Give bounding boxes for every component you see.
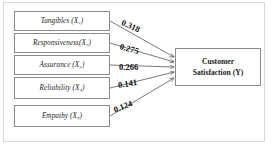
node-tangibles-label: Tangibles (X₁) [41,17,84,25]
node-empathy-label: Empathy (X₅) [42,112,82,120]
node-reliability-label: Reliability (X₄) [39,84,84,92]
outcome-line-2: Satisfaction (Y) [193,67,243,78]
node-tangibles: Tangibles (X₁) [14,11,110,31]
node-responsiveness: Responsiveness(X₂) [14,33,110,53]
coefficient-assurance: 0.266 [119,62,138,72]
node-responsiveness-label: Responsiveness(X₂) [33,39,91,47]
node-customer-satisfaction: Customer Satisfaction (Y) [175,48,261,86]
node-empathy: Empathy (X₅) [14,105,110,127]
path-diagram: Tangibles (X₁) Responsiveness(X₂) Assura… [0,0,274,151]
node-assurance-label: Assurance (X₃) [40,61,85,69]
node-assurance: Assurance (X₃) [14,55,110,75]
outcome-line-1: Customer [193,56,243,67]
node-reliability: Reliability (X₄) [14,77,110,99]
